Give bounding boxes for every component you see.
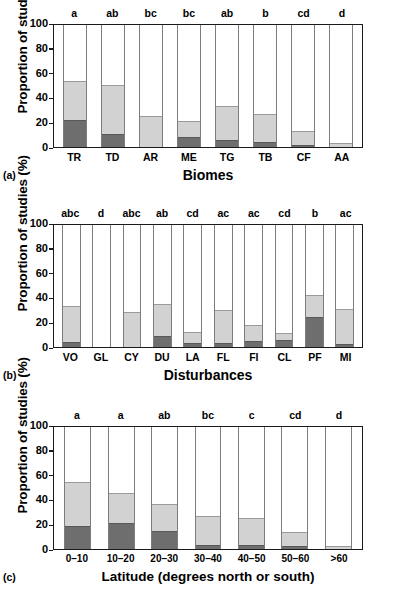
bar-column <box>325 427 352 549</box>
plot-area-c <box>53 426 363 550</box>
x-tick-label-CY: CY <box>116 351 147 363</box>
bar-TR[interactable] <box>63 25 87 147</box>
bar-column <box>92 225 111 347</box>
bar-column <box>305 225 324 347</box>
bar-segment-light <box>65 482 90 526</box>
bar-AR[interactable] <box>139 25 163 147</box>
x-axis-title-c: Latitude (degrees north or south) <box>53 569 363 584</box>
bar-segment-light <box>239 518 264 545</box>
x-tick-label-DU: DU <box>147 351 178 363</box>
y-axis-ticks-b: 020406080100 <box>0 224 53 348</box>
bar-column <box>291 25 315 147</box>
x-tick-label-TD: TD <box>93 151 131 163</box>
bar-segment-dark <box>65 526 90 549</box>
bar-segment-light <box>102 85 124 134</box>
bar-segment-dark <box>63 342 80 347</box>
significance-letter-CL: cd <box>269 207 300 219</box>
y-axis-ticks-a: 020406080100 <box>0 24 53 148</box>
bar-DU[interactable] <box>153 225 172 347</box>
x-tick-label-GL: GL <box>86 351 117 363</box>
x-axis-labels-a: TRTDARMETGTBCFAA <box>53 151 363 163</box>
significance-letters-a: aabbcbcabbcdd <box>53 7 363 19</box>
significance-letter-30–40: bc <box>186 409 230 421</box>
bar-group-c <box>54 427 362 549</box>
significance-letter-AA: d <box>323 7 361 19</box>
bar-10–20[interactable] <box>108 427 135 549</box>
plot-area-a <box>53 24 363 148</box>
bar-VO[interactable] <box>62 225 81 347</box>
x-tick-label-FI: FI <box>239 351 270 363</box>
bar-column <box>64 427 91 549</box>
bar-group-b <box>54 225 362 347</box>
bar-column <box>215 25 239 147</box>
x-tick-label-TG: TG <box>208 151 246 163</box>
bar-FI[interactable] <box>244 225 263 347</box>
bar-CY[interactable] <box>123 225 142 347</box>
significance-letter-DU: ab <box>147 207 178 219</box>
bar-TB[interactable] <box>253 25 277 147</box>
bar-column <box>151 427 178 549</box>
plot-area-b <box>53 224 363 348</box>
bar-column <box>108 427 135 549</box>
bar-segment-light <box>245 325 262 341</box>
bar-MI[interactable] <box>335 225 354 347</box>
bar-CF[interactable] <box>291 25 315 147</box>
bar-column <box>329 25 353 147</box>
significance-letter-TR: a <box>55 7 93 19</box>
bar->60[interactable] <box>325 427 352 549</box>
bar-column <box>62 225 81 347</box>
bar-AA[interactable] <box>329 25 353 147</box>
bar-segment-light <box>326 546 351 549</box>
bar-30–40[interactable] <box>195 427 222 549</box>
bar-segment-dark <box>178 137 200 147</box>
bar-PF[interactable] <box>305 225 324 347</box>
significance-letter-CF: cd <box>285 7 323 19</box>
x-tick-label-CL: CL <box>269 351 300 363</box>
bar-segment-light <box>124 312 141 347</box>
bar-50–60[interactable] <box>281 427 308 549</box>
x-tick-label-PF: PF <box>300 351 331 363</box>
bar-GL[interactable] <box>92 225 111 347</box>
x-tick-label-ME: ME <box>170 151 208 163</box>
bar-CL[interactable] <box>275 225 294 347</box>
bar-LA[interactable] <box>183 225 202 347</box>
significance-letter-MI: ac <box>330 207 361 219</box>
bar-segment-light <box>282 532 307 546</box>
x-tick-label-TB: TB <box>246 151 284 163</box>
significance-letter->60: d <box>317 409 361 421</box>
bar-0–10[interactable] <box>64 427 91 549</box>
bar-20–30[interactable] <box>151 427 178 549</box>
bar-column <box>253 25 277 147</box>
significance-letter-10–20: a <box>99 409 143 421</box>
bar-column <box>183 225 202 347</box>
bar-column <box>238 427 265 549</box>
bar-segment-dark <box>152 531 177 549</box>
bar-column <box>139 25 163 147</box>
bar-segment-light <box>184 332 201 342</box>
bar-segment-light <box>154 304 171 336</box>
significance-letter-ME: bc <box>170 7 208 19</box>
bar-FL[interactable] <box>214 225 233 347</box>
bar-segment-light <box>63 306 80 342</box>
bar-TD[interactable] <box>101 25 125 147</box>
bar-column <box>63 25 87 147</box>
y-axis-ticks-c: 020406080100 <box>0 426 53 550</box>
significance-letter-50–60: cd <box>274 409 318 421</box>
x-tick-label-50–60: 50–60 <box>274 553 318 564</box>
bar-segment-dark <box>254 142 276 147</box>
bar-segment-dark <box>245 341 262 347</box>
panel-c: Proportion of studies (%) 020406080100 a… <box>0 400 418 603</box>
significance-letter-PF: b <box>300 207 331 219</box>
bar-ME[interactable] <box>177 25 201 147</box>
bar-segment-dark <box>215 343 232 347</box>
bar-40–50[interactable] <box>238 427 265 549</box>
bar-segment-dark <box>64 120 86 147</box>
x-axis-labels-b: VOGLCYDULAFLFICLPFMI <box>53 351 363 363</box>
panel-tag-c: (c) <box>3 571 16 583</box>
bar-segment-light <box>292 131 314 145</box>
bar-segment-dark <box>239 545 264 549</box>
significance-letter-TB: b <box>246 7 284 19</box>
bar-column <box>281 427 308 549</box>
bar-column <box>195 427 222 549</box>
bar-TG[interactable] <box>215 25 239 147</box>
